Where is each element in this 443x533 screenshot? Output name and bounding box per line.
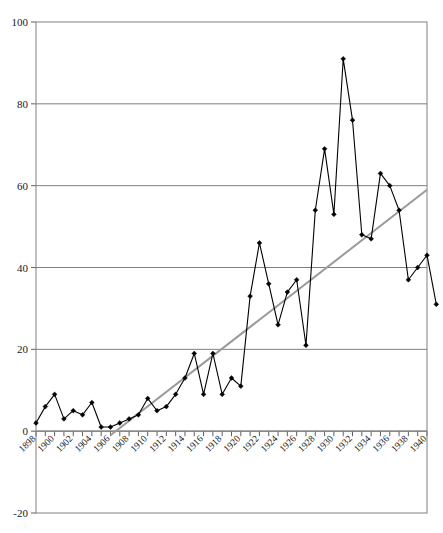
- x-label-1918: 1918: [203, 433, 224, 454]
- y-label--20: -20: [13, 507, 28, 519]
- x-label-1938: 1938: [389, 433, 410, 454]
- x-label-1902: 1902: [54, 433, 75, 454]
- x-label-1900: 1900: [36, 433, 57, 454]
- x-label-1906: 1906: [91, 433, 112, 454]
- x-label-1932: 1932: [333, 433, 354, 454]
- x-label-1940: 1940: [408, 433, 429, 454]
- chart-container: -20020406080100 189819001902190419061908…: [0, 0, 443, 533]
- data-point-1930: [332, 212, 337, 217]
- data-point-1898: [34, 421, 39, 426]
- data-point-1929: [322, 146, 327, 151]
- data-point-1932: [350, 118, 355, 123]
- x-label-1908: 1908: [110, 433, 131, 454]
- y-label-20: 20: [17, 343, 29, 355]
- x-label-1936: 1936: [371, 433, 392, 454]
- data-point-1921: [248, 294, 253, 299]
- data-point-1907: [117, 421, 122, 426]
- data-point-1934: [369, 236, 374, 241]
- x-label-1928: 1928: [296, 433, 317, 454]
- trendline-series: [110, 190, 427, 436]
- y-label-60: 60: [17, 180, 29, 192]
- x-axis-tick-labels: 1898190019021904190619081910191219141916…: [17, 433, 429, 454]
- x-label-1910: 1910: [129, 433, 150, 454]
- data-point-1927: [304, 343, 309, 348]
- y-label-100: 100: [12, 16, 29, 28]
- x-label-1934: 1934: [352, 433, 373, 454]
- data-point-1922: [257, 241, 262, 246]
- x-label-1920: 1920: [222, 433, 243, 454]
- x-label-1898: 1898: [17, 433, 38, 454]
- data-point-1915: [192, 351, 197, 356]
- x-label-1904: 1904: [73, 433, 94, 454]
- data-series-line: [36, 59, 436, 427]
- data-point-1905: [99, 425, 104, 430]
- x-label-1912: 1912: [147, 433, 168, 454]
- x-label-1926: 1926: [278, 433, 299, 454]
- data-point-1923: [266, 281, 271, 286]
- x-label-1924: 1924: [259, 433, 280, 454]
- gridlines: [36, 104, 427, 431]
- data-point-1916: [201, 392, 206, 397]
- data-point-1924: [276, 322, 281, 327]
- data-point-1906: [108, 425, 113, 430]
- trendline: [110, 190, 427, 436]
- x-label-1914: 1914: [166, 433, 187, 454]
- line-chart: -20020406080100 189819001902190419061908…: [0, 0, 443, 533]
- data-point-1931: [341, 56, 346, 61]
- series-polyline: [36, 59, 436, 427]
- data-point-43: [434, 302, 439, 307]
- y-label-80: 80: [17, 98, 29, 110]
- x-label-1922: 1922: [240, 433, 261, 454]
- data-point-1918: [220, 392, 225, 397]
- data-point-1928: [313, 208, 318, 213]
- data-point-1933: [359, 232, 364, 237]
- x-label-1930: 1930: [315, 433, 336, 454]
- x-label-1916: 1916: [184, 433, 205, 454]
- y-label-40: 40: [17, 262, 29, 274]
- data-point-markers: [34, 56, 439, 429]
